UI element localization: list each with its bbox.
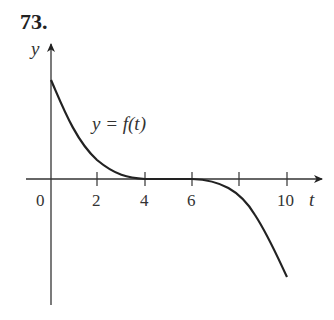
x-axis-label: t: [309, 189, 315, 210]
tick-label-10: 10: [277, 191, 294, 210]
tick-label-6: 6: [187, 191, 196, 210]
tick-label-0: 0: [36, 191, 45, 210]
tick-label-2: 2: [92, 191, 101, 210]
graph: 73. y t 0 2 4 6 10 y = f(t): [0, 0, 334, 320]
y-axis-label: y: [29, 38, 40, 59]
figure: 73. y t 0 2 4 6 10 y = f(t): [0, 0, 334, 320]
curve-label: y = f(t): [90, 113, 146, 135]
tick-label-4: 4: [140, 191, 149, 210]
problem-number: 73.: [20, 9, 48, 34]
